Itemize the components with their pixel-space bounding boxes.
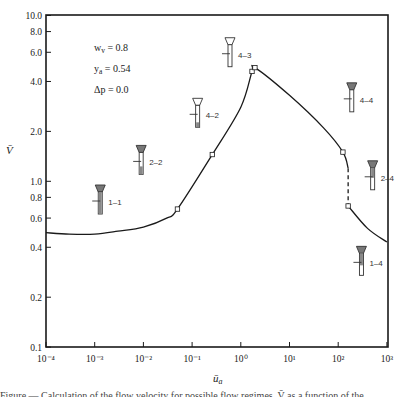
y-tick-label: 10.0 (25, 11, 42, 21)
parameter-w_v: wv = 0.8 (94, 42, 128, 55)
x-tick-label: 10⁻⁴ (37, 354, 56, 364)
data-markers (175, 65, 350, 211)
x-axis-ticks: 10⁻⁴10⁻³10⁻²10⁻¹10⁰10¹10²10³ (37, 342, 393, 364)
flow-regime-icon: 4–3 (222, 38, 252, 67)
x-tick-label: 10¹ (283, 354, 296, 364)
x-tick-label: 10⁻¹ (183, 354, 201, 364)
figure-caption: Figure — Calculation of the flow velocit… (0, 389, 403, 397)
data-point-marker (210, 152, 214, 156)
y-tick-label: 0.1 (30, 343, 42, 353)
data-point-marker (175, 207, 179, 211)
x-tick-label: 10³ (381, 354, 394, 364)
data-point-marker (341, 150, 345, 154)
y-tick-label: 0.8 (30, 193, 42, 203)
regime-label: 1–1 (108, 198, 122, 207)
parameter-y_a: ya = 0.54 (94, 63, 130, 76)
regime-label: 2–2 (149, 158, 163, 167)
regime-label: 4–2 (206, 111, 220, 120)
flow-regime-icon: 4–2 (190, 98, 220, 127)
y-tick-label: 8.0 (30, 27, 42, 37)
x-axis-title: ūa (213, 372, 223, 386)
parameter-Δp: Δp = 0.0 (94, 84, 129, 95)
regime-label: 2–4 (381, 174, 395, 183)
flow-regime-icon: 2–4 (365, 161, 395, 190)
x-tick-label: 10⁻³ (86, 354, 104, 364)
y-axis-title: V̄ (6, 144, 14, 156)
x-tick-label: 10² (332, 354, 345, 364)
data-curve (348, 206, 387, 242)
regime-label: 1–4 (369, 259, 383, 268)
flow-regime-icon: 1–4 (353, 246, 383, 275)
y-tick-label: 0.2 (30, 293, 42, 303)
regime-label: 4–3 (238, 51, 252, 60)
y-tick-label: 0.6 (30, 214, 42, 224)
chart: 10.08.06.04.02.01.00.80.60.40.20.1 10⁻⁴1… (0, 0, 403, 397)
regime-label: 4–4 (360, 96, 374, 105)
y-tick-label: 0.4 (30, 243, 42, 253)
data-point-marker (346, 204, 350, 208)
y-tick-label: 4.0 (30, 77, 42, 87)
flow-regime-icon: 4–4 (344, 83, 374, 112)
regime-insets: 1–12–24–24–34–42–41–4 (92, 38, 394, 276)
y-axis-ticks: 10.08.06.04.02.01.00.80.60.40.20.1 (25, 11, 51, 353)
flow-regime-icon: 1–1 (92, 185, 122, 214)
data-curve (46, 65, 348, 234)
y-tick-label: 1.0 (30, 177, 42, 187)
y-tick-label: 2.0 (30, 127, 42, 137)
parameter-annotations: wv = 0.8ya = 0.54Δp = 0.0 (94, 42, 130, 95)
x-tick-label: 10⁰ (234, 354, 248, 364)
flow-regime-icon: 2–2 (133, 145, 163, 174)
x-tick-label: 10⁻² (135, 354, 153, 364)
y-tick-label: 6.0 (30, 48, 42, 58)
data-point-marker (253, 65, 257, 69)
